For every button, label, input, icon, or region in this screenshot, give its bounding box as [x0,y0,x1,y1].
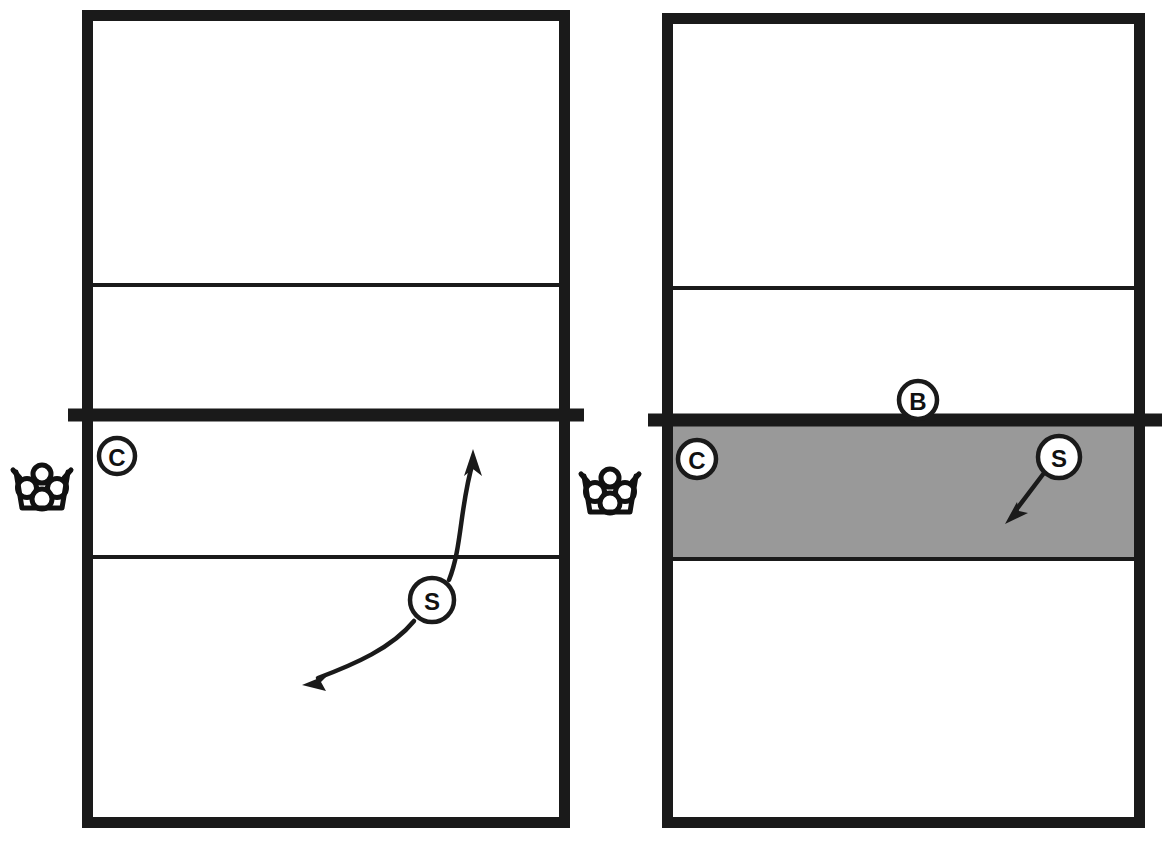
coach-marker[interactable]: C [678,440,716,478]
setter-marker-label: S [424,588,440,615]
setter-marker[interactable]: S [1038,436,1080,478]
setter-recovery-arrow [302,621,414,691]
blocker-marker[interactable]: B [899,381,937,419]
diagram-canvas: C S [0,0,1168,845]
volleyball-diagram-svg: C S [0,0,1168,845]
coach-marker-label: C [688,447,705,474]
setter-approach-arrow [449,449,482,580]
left-court-diagram: C S [13,16,584,823]
blocker-marker-label: B [909,388,926,415]
coach-marker[interactable]: C [99,438,135,474]
right-court-diagram: B C S [581,19,1162,823]
ball-cart-icon [13,465,71,509]
coach-marker-label: C [108,444,125,471]
setter-marker[interactable]: S [410,578,454,622]
ball-cart-icon [581,469,639,513]
setter-marker-label: S [1051,445,1067,472]
